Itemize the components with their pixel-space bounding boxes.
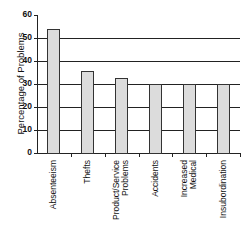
y-tick-label: 30 [14,78,32,88]
x-tick-label: Insubordination [219,160,228,218]
y-tick-label: 50 [14,32,32,42]
x-tick-label: Absenteeism [49,160,58,209]
y-tick [34,153,38,154]
y-tick-label: 0 [14,147,32,157]
x-tick [105,153,106,157]
bar [149,84,162,154]
x-tick [71,153,72,157]
y-tick [34,15,38,16]
gridline [37,38,240,39]
x-tick-label: Increased Medical [180,160,198,197]
y-tick-label: 20 [14,101,32,111]
bar [115,78,128,154]
x-tick [240,153,241,157]
y-tick-label: 40 [14,55,32,65]
y-tick-label: 10 [14,124,32,134]
bar [47,29,60,154]
x-tick-label: Product/Service Problems [112,160,130,220]
gridline [37,107,240,108]
x-tick [139,153,140,157]
x-tick [172,153,173,157]
x-tick-label: Accidents [151,160,160,197]
bar [217,84,230,154]
bar [183,84,196,154]
gridline [37,61,240,62]
bar [81,71,94,154]
gridline [37,130,240,131]
x-tick [206,153,207,157]
gridline [37,84,240,85]
y-tick-label: 60 [14,9,32,19]
x-tick-label: Thefts [83,160,92,184]
